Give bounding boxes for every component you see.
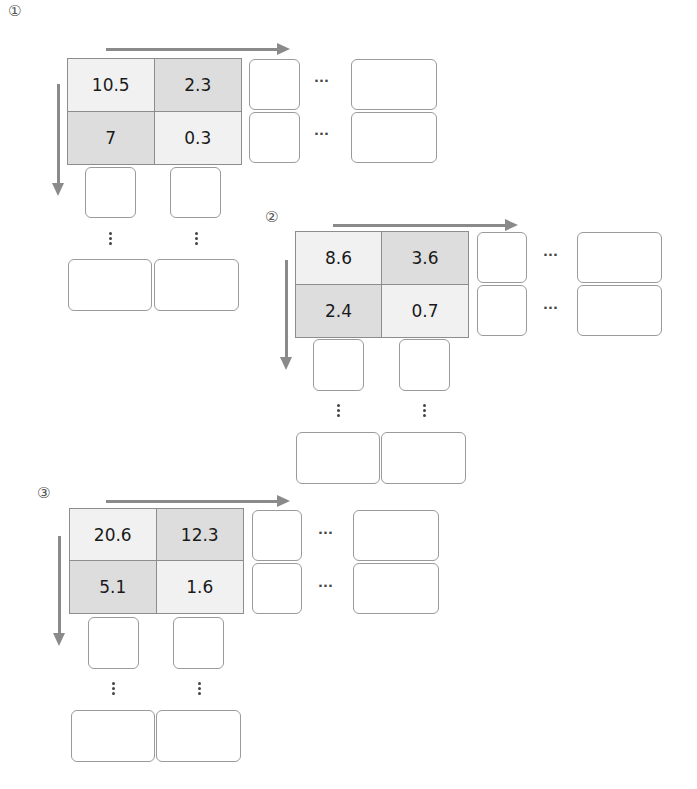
empty-box [353,510,439,561]
vertical-ellipsis [198,682,202,695]
vertical-ellipsis [337,404,341,417]
empty-box [351,112,437,163]
table-cell: 7 [68,112,155,165]
ellipsis: ··· [318,579,333,592]
ellipsis: ··· [318,526,333,539]
table-cell: 2.4 [296,285,382,338]
table-cell: 12.3 [157,509,244,561]
empty-box [399,339,450,391]
value-table: 20.6 12.3 5.1 1.6 [69,508,244,614]
empty-box [170,167,221,218]
ellipsis: ··· [314,74,329,87]
table-cell: 0.3 [155,112,242,165]
table-cell: 0.7 [382,285,468,338]
empty-box [154,259,239,311]
table-cell: 2.3 [155,59,242,112]
empty-box [71,710,155,762]
empty-box [353,563,439,614]
down-arrow-icon [57,84,60,184]
empty-box [68,259,152,311]
vertical-ellipsis [109,232,113,245]
right-arrow-icon [333,224,506,227]
right-arrow-icon [106,48,278,51]
empty-box [173,617,224,669]
table-cell: 8.6 [296,232,382,285]
vertical-ellipsis [195,232,199,245]
table-cell: 5.1 [70,561,157,613]
down-arrow-icon [285,260,288,358]
empty-box [249,112,300,163]
ellipsis: ··· [543,301,558,314]
empty-box [477,285,527,336]
empty-box [156,710,241,762]
value-table: 8.6 3.6 2.4 0.7 [295,231,469,338]
table-cell: 3.6 [382,232,468,285]
vertical-ellipsis [423,404,427,417]
right-arrow-icon [106,500,278,503]
ellipsis: ··· [314,127,329,140]
diagram-label: ③ [37,486,50,501]
table-cell: 20.6 [70,509,157,561]
table-cell: 1.6 [157,561,244,613]
empty-box [252,563,302,614]
empty-box [88,617,139,669]
empty-box [477,232,527,283]
down-arrow-icon [58,536,61,634]
empty-box [249,59,300,110]
value-table: 10.5 2.3 7 0.3 [67,58,242,165]
vertical-ellipsis [112,682,116,695]
empty-box [351,59,437,110]
table-cell: 10.5 [68,59,155,112]
empty-box [252,510,302,561]
empty-box [381,432,466,484]
empty-box [577,232,662,283]
diagram-label: ① [8,4,21,19]
ellipsis: ··· [543,248,558,261]
diagram-label: ② [265,210,278,225]
empty-box [313,339,364,391]
empty-box [296,432,380,484]
empty-box [577,285,662,336]
empty-box [85,167,136,218]
